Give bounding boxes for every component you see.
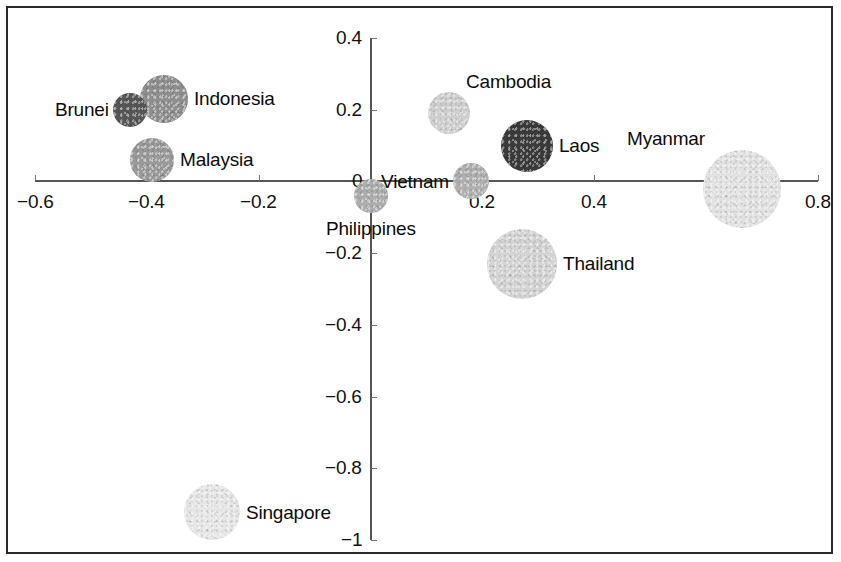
- bubble-singapore: [184, 484, 240, 540]
- x-axis-tick: [259, 175, 260, 181]
- bubble-indonesia: [140, 75, 188, 123]
- bubble-laos: [501, 120, 553, 172]
- y-axis-tick-label: 0.4: [336, 28, 362, 47]
- bubble-label-brunei: Brunei: [55, 100, 109, 119]
- y-axis-tick: [371, 325, 377, 326]
- y-axis-tick: [371, 38, 377, 39]
- bubble-label-cambodia: Cambodia: [466, 72, 551, 91]
- x-axis-tick: [818, 175, 819, 181]
- bubble-texture: [184, 484, 240, 540]
- bubble-texture: [703, 150, 781, 228]
- y-axis-line: [370, 38, 372, 540]
- bubble-label-laos: Laos: [559, 136, 599, 155]
- bubble-texture: [487, 229, 557, 299]
- y-axis-tick-label: 0.2: [336, 100, 362, 119]
- bubble-myanmar: [703, 150, 781, 228]
- bubble-label-singapore: Singapore: [246, 503, 331, 522]
- bubble-texture: [130, 138, 174, 182]
- x-axis-tick-label: −0.4: [128, 192, 165, 211]
- bubble-cambodia: [428, 92, 470, 134]
- bubble-texture: [501, 120, 553, 172]
- x-axis-tick-label: 0.4: [581, 192, 607, 211]
- bubble-label-malaysia: Malaysia: [180, 150, 253, 169]
- bubble-texture: [113, 93, 147, 127]
- bubble-label-indonesia: Indonesia: [194, 89, 275, 108]
- x-axis-tick-label: −0.2: [240, 192, 277, 211]
- y-axis-tick-label: −0.8: [325, 458, 362, 477]
- bubble-label-philippines: Philippines: [326, 219, 416, 238]
- bubble-malaysia: [130, 138, 174, 182]
- x-axis-tick: [594, 175, 595, 181]
- bubble-label-myanmar: Myanmar: [627, 129, 705, 148]
- x-axis-tick-label: 0.8: [805, 192, 831, 211]
- bubble-thailand: [487, 229, 557, 299]
- bubble-texture: [428, 92, 470, 134]
- x-axis-tick-label: −0.6: [17, 192, 54, 211]
- y-axis-tick-label: −0.2: [325, 243, 362, 262]
- plot-area: −0.6−0.4−0.200.20.40.80.40.20−0.2−0.4−0.…: [0, 0, 841, 562]
- bubble-brunei: [113, 93, 147, 127]
- y-axis-tick: [371, 110, 377, 111]
- y-axis-tick: [371, 468, 377, 469]
- x-axis-tick: [35, 175, 36, 181]
- y-axis-tick-label: −0.6: [325, 387, 362, 406]
- bubble-label-vietnam: Vietnam: [381, 172, 449, 191]
- bubble-chart-figure: −0.6−0.4−0.200.20.40.80.40.20−0.2−0.4−0.…: [0, 0, 841, 562]
- y-axis-tick: [371, 540, 377, 541]
- y-axis-tick-label: −1: [341, 530, 362, 549]
- y-axis-tick: [371, 397, 377, 398]
- bubble-texture: [140, 75, 188, 123]
- y-axis-tick: [371, 253, 377, 254]
- bubble-label-thailand: Thailand: [563, 254, 634, 273]
- y-axis-tick-label: −0.4: [325, 315, 362, 334]
